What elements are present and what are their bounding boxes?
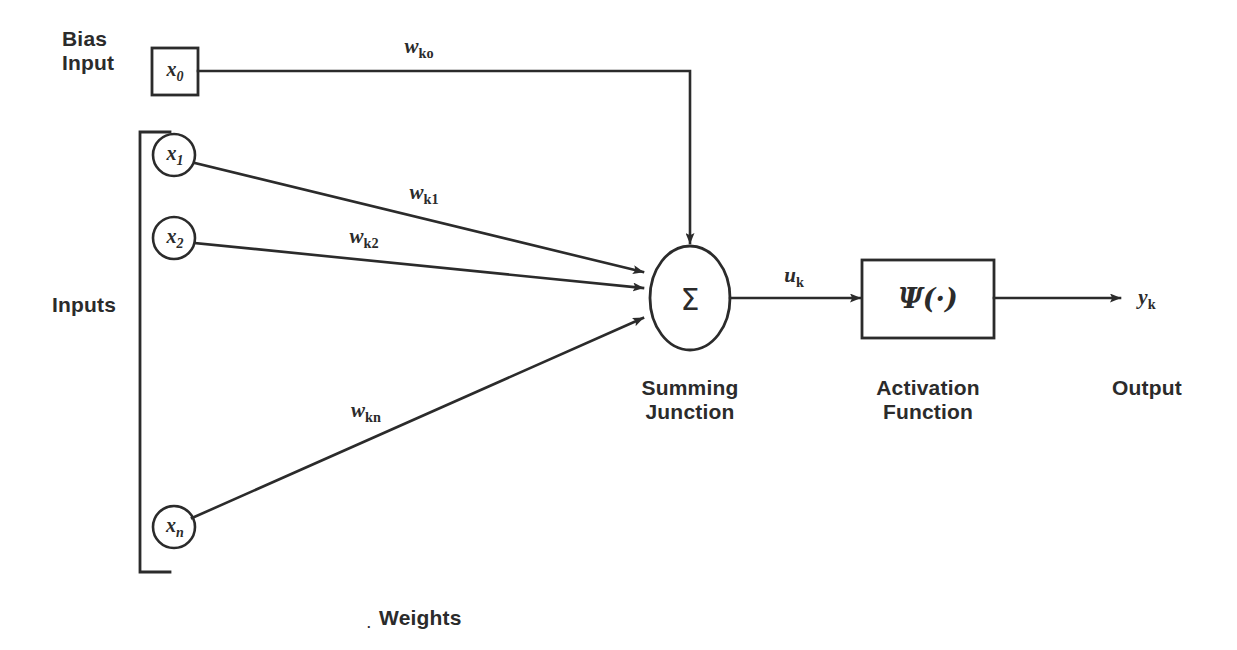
inputs-bracket: [140, 132, 170, 572]
weights-marker-dot: .: [367, 616, 371, 631]
summing-junction-caption-line2: Junction: [645, 400, 734, 425]
induced-field-label: uk: [784, 263, 804, 291]
weight-label-n: wkn: [351, 398, 381, 426]
weights-label: Weights: [379, 606, 462, 631]
weight-label-2: wk2: [349, 224, 378, 252]
input-node-symbol-2: x2: [167, 225, 184, 253]
weight-connection-line-2: [195, 243, 643, 288]
diagram-vector-layer: [0, 0, 1237, 650]
summation-symbol: Σ: [681, 282, 700, 317]
neuron-diagram-canvas: Bias Input x0 wko Inputs x1 x2 xn wk1 wk…: [0, 0, 1237, 650]
input-node-symbol-n: xn: [166, 514, 184, 542]
weight-label-1: wk1: [409, 180, 438, 208]
bias-input-label-line2: Input: [62, 51, 114, 76]
bias-weight-label: wko: [404, 34, 433, 62]
bias-input-label: Bias: [62, 27, 107, 52]
weight-connection-line-n: [192, 318, 643, 518]
activation-function-caption: Activation: [876, 376, 980, 401]
activation-function-symbol: Ψ(·): [898, 283, 958, 315]
input-node-symbol-1: x1: [167, 142, 184, 170]
activation-function-caption-line2: Function: [883, 400, 973, 425]
output-symbol: yk: [1138, 285, 1155, 313]
summing-junction-caption: Summing: [641, 376, 738, 401]
bias-connection-line: [198, 71, 690, 243]
inputs-label: Inputs: [52, 293, 116, 318]
output-caption: Output: [1112, 376, 1182, 401]
bias-node-symbol: x0: [167, 58, 184, 86]
